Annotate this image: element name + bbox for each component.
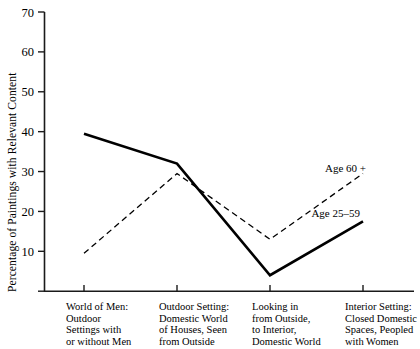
x-axis-category-label: Interior Setting: (345, 301, 412, 312)
x-axis-category-label: World of Men: (66, 301, 128, 312)
x-axis-category-label: Outdoor Setting: (159, 301, 229, 312)
series-annotation-label: Age 60 + (325, 162, 366, 174)
series-lines (84, 134, 363, 276)
x-axis-category-label: with Women (345, 336, 399, 347)
y-tick-label: 50 (22, 85, 35, 99)
y-axis-ticks: 10203040506070 (22, 6, 45, 292)
x-axis-category-label: Domestic World (252, 336, 321, 347)
y-tick-label: 30 (22, 165, 35, 179)
x-axis-category-label: Looking in (252, 301, 299, 312)
x-axis-ticks (84, 285, 363, 291)
x-axis-labels: World of Men:OutdoorSettings withor with… (66, 301, 417, 347)
x-axis-category-label: Domestic World (159, 313, 228, 324)
chart-container: Percentage of Paintings with Relevant Co… (0, 0, 420, 349)
y-tick-label: 10 (22, 245, 35, 259)
line-chart: Percentage of Paintings with Relevant Co… (0, 0, 420, 349)
x-axis-category-label: from Outside (159, 336, 215, 347)
y-tick-label: 60 (22, 45, 35, 59)
x-axis-category-label: to Interior, (252, 324, 296, 335)
y-tick-label: 20 (22, 205, 35, 219)
x-axis-category-label: Spaces, Peopled (345, 324, 414, 335)
y-tick-label: 40 (22, 125, 35, 139)
y-axis-title: Percentage of Paintings with Relevant Co… (6, 72, 19, 292)
series-line-solid (84, 134, 363, 276)
x-axis-category-label: of Houses, Seen (159, 324, 228, 335)
y-tick-label: 70 (22, 6, 35, 20)
series-annotation-label: Age 25–59 (311, 207, 360, 219)
x-axis-category-label: Closed Domestic (345, 313, 417, 324)
x-axis-category-label: Settings with (66, 324, 122, 335)
x-axis-category-label: Outdoor (66, 313, 102, 324)
x-axis-category-label: or without Men (66, 336, 132, 347)
x-axis-category-label: from Outside, (252, 313, 310, 324)
